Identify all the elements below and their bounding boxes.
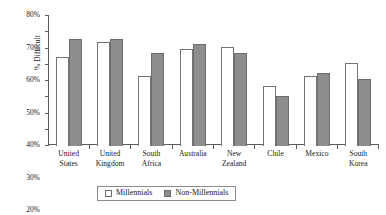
bar-group xyxy=(131,15,172,146)
x-axis-category-label: SouthAfrica xyxy=(131,149,172,168)
bar-group xyxy=(214,15,255,146)
x-axis-category-label: Mexico xyxy=(296,149,337,168)
x-axis-category-label-line: Kingdom xyxy=(90,159,129,169)
x-axis-category-label: Australia xyxy=(172,149,213,168)
bar-millennials xyxy=(97,42,110,146)
x-axis-category-label-line: Korea xyxy=(339,159,378,169)
x-axis-category-label: NewZealand xyxy=(214,149,255,168)
x-axis-category-label: UnitedStates xyxy=(48,149,89,168)
bar-group xyxy=(255,15,296,146)
bar-non-millennials xyxy=(110,39,123,146)
x-axis-category-label-line: Australia xyxy=(173,149,212,159)
bar-non-millennials xyxy=(193,44,206,146)
bar-group xyxy=(296,15,337,146)
bar-millennials xyxy=(345,63,358,146)
bar-non-millennials xyxy=(69,39,82,146)
bar-millennials xyxy=(180,49,193,147)
y-axis-tick-label: 50% xyxy=(26,109,40,117)
bar-non-millennials xyxy=(358,79,371,146)
bar-non-millennials xyxy=(317,73,330,146)
bar-millennials xyxy=(138,76,151,146)
x-axis-category-label: SouthKorea xyxy=(338,149,379,168)
bar-millennials xyxy=(221,47,234,146)
x-axis-category-label-line: United xyxy=(90,149,129,159)
x-axis-category-label-line: United xyxy=(49,149,88,159)
x-axis-category-label-line: South xyxy=(339,149,378,159)
x-axis-category-label-line: Africa xyxy=(132,159,171,169)
x-axis-category-label: UnitedKingdom xyxy=(89,149,130,168)
filled-square-swatch-icon xyxy=(164,190,171,197)
bar-chart-figure: % Difficult 0%10%20%30%40%50%60%70%80% U… xyxy=(0,0,386,215)
bar-group xyxy=(338,15,379,146)
x-axis-category-label-line: Mexico xyxy=(297,149,336,159)
chart-legend: Millennials Non-Millennials xyxy=(97,186,236,201)
x-axis-category-label: Chile xyxy=(255,149,296,168)
legend-label-non-millennials: Non-Millennials xyxy=(175,189,228,197)
bar-non-millennials xyxy=(276,96,289,146)
bar-non-millennials xyxy=(234,53,247,146)
y-axis-tick-label: 30% xyxy=(26,174,40,182)
x-axis-category-label-line: New xyxy=(215,149,254,159)
x-axis-category-label-line: Chile xyxy=(256,149,295,159)
bar-millennials xyxy=(304,76,317,146)
x-axis-category-label-line: States xyxy=(49,159,88,169)
bar-group-container xyxy=(48,15,379,146)
bar-group xyxy=(48,15,89,146)
bar-group xyxy=(89,15,130,146)
bar-millennials xyxy=(263,86,276,146)
y-axis-tick-label: 20% xyxy=(26,206,40,214)
x-axis-category-label-line: South xyxy=(132,149,171,159)
y-axis-tick-label: 70% xyxy=(26,44,40,52)
bar-millennials xyxy=(56,57,69,146)
y-axis-tick-label: 60% xyxy=(26,76,40,84)
bar-non-millennials xyxy=(151,53,164,146)
x-axis-category-label-line: Zealand xyxy=(215,159,254,169)
y-axis-tick-label: 40% xyxy=(26,141,40,149)
bar-group xyxy=(172,15,213,146)
y-axis-tick-label: 80% xyxy=(26,11,40,19)
legend-label-millennials: Millennials xyxy=(116,189,152,197)
legend-item-non-millennials: Non-Millennials xyxy=(164,189,228,197)
open-square-swatch-icon xyxy=(105,190,112,197)
x-axis-label-group: UnitedStatesUnitedKingdomSouthAfricaAust… xyxy=(48,149,379,168)
legend-item-millennials: Millennials xyxy=(105,189,152,197)
plot-area: 0%10%20%30%40%50%60%70%80% xyxy=(48,15,378,145)
